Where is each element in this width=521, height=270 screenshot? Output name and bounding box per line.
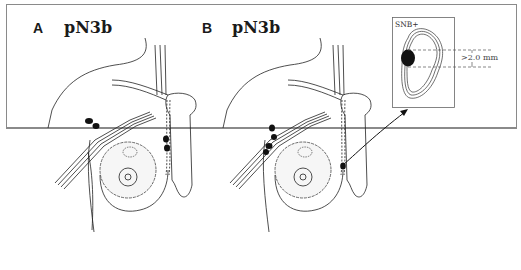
diagram-canvas	[0, 0, 521, 270]
panel-a-label: A	[33, 20, 43, 36]
panel-a-anatomy	[48, 38, 196, 232]
panel-a-title: pN3b	[64, 18, 112, 37]
panel-b-label: B	[202, 20, 212, 36]
metastasis-deposit	[401, 50, 415, 67]
panel-b-anatomy	[223, 38, 405, 232]
panel-b-title: pN3b	[232, 18, 280, 37]
inset-label: SNB+	[395, 20, 419, 29]
measurement-label: >2.0 mm	[460, 53, 499, 62]
